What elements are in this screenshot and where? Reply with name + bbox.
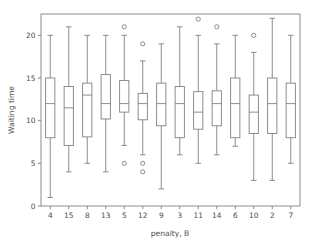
boxplot-figure: 05101520 41581351293111461027 Waiting ti… — [0, 0, 314, 243]
boxplot-box — [194, 17, 203, 163]
box-iqr — [83, 83, 92, 137]
y-tick-label: 0 — [31, 202, 36, 211]
boxes-layer — [46, 17, 296, 197]
box-iqr — [101, 75, 110, 119]
y-tick-label: 5 — [31, 159, 36, 168]
y-axis-title: Waiting time — [7, 86, 16, 134]
box-iqr — [286, 83, 295, 138]
box-iqr — [175, 87, 184, 138]
x-axis-title: penalty, B — [151, 229, 190, 238]
box-iqr — [138, 93, 147, 119]
outlier-point — [141, 161, 145, 165]
outlier-point — [122, 25, 126, 29]
box-iqr — [212, 91, 221, 126]
boxplot-box — [101, 35, 110, 172]
x-axis: 41581351293111461027 — [48, 206, 294, 220]
outlier-point — [252, 33, 256, 37]
outlier-point — [141, 42, 145, 46]
y-tick-label: 15 — [26, 74, 36, 83]
box-iqr — [268, 78, 277, 133]
y-axis: 05101520 — [26, 31, 41, 211]
box-iqr — [120, 81, 129, 113]
outlier-point — [122, 161, 126, 165]
box-iqr — [249, 95, 258, 133]
x-tick-label: 10 — [249, 211, 259, 220]
x-tick-label: 3 — [177, 211, 182, 220]
x-tick-label: 9 — [159, 211, 164, 220]
boxplot-box — [120, 25, 129, 166]
box-iqr — [231, 78, 240, 138]
x-tick-label: 12 — [138, 211, 147, 220]
boxplot-box — [138, 42, 147, 174]
outlier-point — [196, 17, 200, 21]
plot-border — [41, 14, 300, 206]
x-tick-label: 14 — [212, 211, 222, 220]
boxplot-box — [157, 44, 166, 189]
x-tick-label: 5 — [122, 211, 127, 220]
x-tick-label: 2 — [270, 211, 275, 220]
x-tick-label: 4 — [48, 211, 53, 220]
plot-frame — [41, 14, 300, 206]
x-tick-label: 11 — [194, 211, 204, 220]
x-tick-label: 8 — [85, 211, 90, 220]
x-tick-label: 6 — [233, 211, 238, 220]
boxplot-box — [231, 35, 240, 146]
x-tick-label: 15 — [64, 211, 74, 220]
boxplot-box — [268, 18, 277, 180]
box-iqr — [157, 83, 166, 126]
boxplot-box — [286, 35, 295, 163]
outlier-point — [141, 170, 145, 174]
boxplot-box — [249, 33, 258, 180]
boxplot-box — [83, 35, 92, 163]
box-iqr — [46, 78, 55, 138]
x-tick-label: 13 — [101, 211, 111, 220]
outlier-point — [215, 25, 219, 29]
x-tick-label: 7 — [288, 211, 293, 220]
boxplot-box — [212, 25, 221, 155]
y-tick-label: 10 — [26, 116, 36, 125]
boxplot-box — [46, 35, 55, 197]
box-iqr — [64, 87, 73, 146]
boxplot-box — [175, 27, 184, 155]
boxplot-box — [64, 27, 73, 172]
boxplot-canvas: 05101520 41581351293111461027 Waiting ti… — [0, 0, 314, 243]
y-tick-label: 20 — [26, 31, 36, 40]
box-iqr — [194, 92, 203, 130]
